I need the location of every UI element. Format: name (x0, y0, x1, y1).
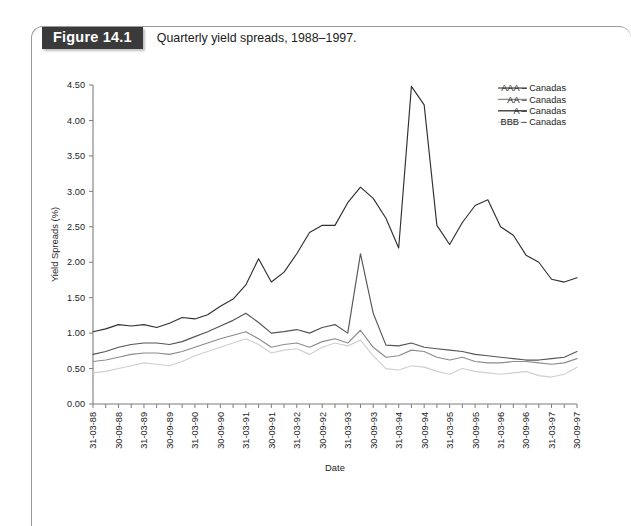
y-axis-tick-label: 1.50 (67, 293, 85, 303)
x-axis-tick-label: 30-09-90 (216, 412, 226, 449)
legend-item-label: AAA – Canadas (501, 83, 566, 93)
chart-series-line (93, 330, 577, 364)
x-axis-tick-label: 31-03-95 (445, 412, 455, 449)
y-axis-tick-label: 0.50 (67, 364, 85, 374)
chart-series-group (93, 86, 577, 377)
x-axis-tick-label: 31-03-88 (88, 412, 98, 449)
x-axis-title: Date (325, 462, 345, 473)
chart-axes: 0.000.501.001.502.002.503.003.504.004.50… (67, 80, 582, 449)
legend-item-label: A – Canadas (513, 106, 566, 116)
y-axis-tick-label: 2.00 (67, 257, 85, 267)
y-axis-title: Yield Spreads (%) (49, 207, 60, 282)
y-axis-tick-label: 4.00 (67, 116, 85, 126)
x-axis-tick-label: 31-03-94 (394, 412, 404, 449)
x-axis-tick-label: 30-09-94 (420, 412, 430, 449)
legend-item-label: BBB – Canadas (501, 117, 567, 127)
y-axis-tick-label: 3.50 (67, 151, 85, 161)
y-axis-tick-label: 3.00 (67, 187, 85, 197)
chart-legend: AAA – CanadasAA – CanadasA – CanadasBBB … (498, 83, 566, 127)
y-axis-tick-label: 1.00 (67, 328, 85, 338)
x-axis-tick-label: 31-03-89 (139, 412, 149, 449)
x-axis-tick-label: 30-09-91 (267, 412, 277, 449)
x-axis-tick-label: 30-09-95 (471, 412, 481, 449)
y-axis-tick-label: 0.00 (67, 399, 85, 409)
x-axis-tick-label: 31-03-93 (343, 412, 353, 449)
x-axis-tick-label: 31-03-92 (292, 412, 302, 449)
x-axis-tick-label: 30-09-93 (369, 412, 379, 449)
x-axis-tick-label: 30-09-89 (165, 412, 175, 449)
x-axis-tick-label: 30-09-88 (114, 412, 124, 449)
x-axis-tick-label: 31-03-90 (190, 412, 200, 449)
legend-item-label: AA – Canadas (507, 95, 566, 105)
y-axis-tick-label: 4.50 (67, 80, 85, 90)
chart-series-line (93, 254, 577, 360)
x-axis-tick-label: 30-09-92 (318, 412, 328, 449)
x-axis-tick-label: 30-09-96 (521, 412, 531, 449)
x-axis-tick-label: 30-09-97 (572, 412, 582, 449)
x-axis-tick-label: 31-03-97 (547, 412, 557, 449)
y-axis-tick-label: 2.50 (67, 222, 85, 232)
x-axis-tick-label: 31-03-91 (241, 412, 251, 449)
x-axis-tick-label: 31-03-96 (496, 412, 506, 449)
